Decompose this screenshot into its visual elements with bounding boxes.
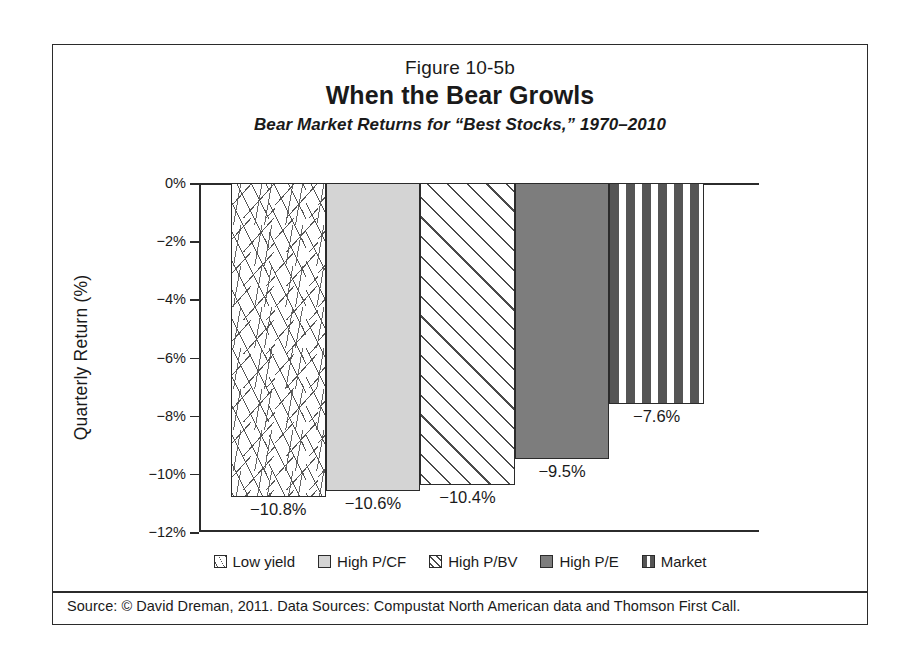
- legend-item[interactable]: Low yield: [214, 553, 296, 570]
- bar-slot: −10.8%: [231, 183, 326, 532]
- y-tick-label: 0%: [165, 175, 186, 191]
- legend-swatch-icon: [318, 555, 331, 568]
- y-tick-mark: [190, 299, 199, 301]
- y-axis-spine: [199, 183, 201, 532]
- legend-label: Low yield: [233, 553, 296, 570]
- legend-item[interactable]: High P/BV: [429, 553, 517, 570]
- bar-slot: −7.6%: [609, 183, 704, 532]
- bar[interactable]: [420, 183, 515, 485]
- figure-number: Figure 10-5b: [53, 55, 867, 80]
- legend-item[interactable]: Market: [642, 553, 707, 570]
- bar-group: −10.8%−10.6%−10.4%−9.5%−7.6%: [231, 183, 704, 532]
- y-tick-label: −10%: [149, 466, 187, 482]
- chart-legend: Low yieldHigh P/CFHigh P/BVHigh P/EMarke…: [53, 553, 867, 570]
- figure-title: When the Bear Growls: [53, 80, 867, 111]
- bar-value-label: −10.4%: [420, 488, 515, 507]
- y-tick-mark: [190, 532, 199, 534]
- bar-value-label: −10.6%: [326, 494, 421, 513]
- y-tick-mark: [190, 416, 199, 418]
- bar[interactable]: [326, 183, 421, 491]
- legend-swatch-icon: [540, 555, 553, 568]
- legend-swatch-icon: [429, 555, 442, 568]
- bar[interactable]: [609, 183, 704, 404]
- y-tick-label: −2%: [157, 233, 186, 249]
- y-tick-mark: [190, 183, 199, 185]
- y-tick-label: −6%: [157, 350, 186, 366]
- legend-swatch-icon: [642, 555, 655, 568]
- source-note: Source: © David Dreman, 2011. Data Sourc…: [67, 598, 740, 614]
- plot-area: 0%−2%−4%−6%−8%−10%−12% −10.8%−10.6%−10.4…: [199, 183, 759, 532]
- bar[interactable]: [231, 183, 326, 497]
- figure-subtitle: Bear Market Returns for “Best Stocks,” 1…: [53, 111, 867, 138]
- y-tick-mark: [190, 474, 199, 476]
- legend-item[interactable]: High P/CF: [318, 553, 406, 570]
- figure-title-block: Figure 10-5b When the Bear Growls Bear M…: [53, 55, 867, 138]
- bar[interactable]: [515, 183, 610, 459]
- figure-frame: Figure 10-5b When the Bear Growls Bear M…: [52, 44, 868, 625]
- bar-slot: −10.4%: [420, 183, 515, 532]
- bar-value-label: −10.8%: [231, 500, 326, 519]
- bar-value-label: −7.6%: [609, 407, 704, 426]
- y-tick-mark: [190, 241, 199, 243]
- legend-label: High P/BV: [448, 553, 517, 570]
- bar-slot: −10.6%: [326, 183, 421, 532]
- y-tick-label: −8%: [157, 408, 186, 424]
- y-axis-title: Quarterly Return (%): [69, 183, 95, 532]
- legend-item[interactable]: High P/E: [540, 553, 618, 570]
- source-divider: [53, 591, 867, 593]
- bar-value-label: −9.5%: [515, 462, 610, 481]
- legend-label: High P/CF: [337, 553, 406, 570]
- y-tick-label: −4%: [157, 291, 186, 307]
- y-axis-title-label: Quarterly Return (%): [72, 275, 93, 440]
- y-tick-label: −12%: [149, 524, 187, 540]
- legend-swatch-icon: [214, 555, 227, 568]
- legend-label: High P/E: [559, 553, 618, 570]
- legend-label: Market: [661, 553, 707, 570]
- y-tick-mark: [190, 358, 199, 360]
- bar-slot: −9.5%: [515, 183, 610, 532]
